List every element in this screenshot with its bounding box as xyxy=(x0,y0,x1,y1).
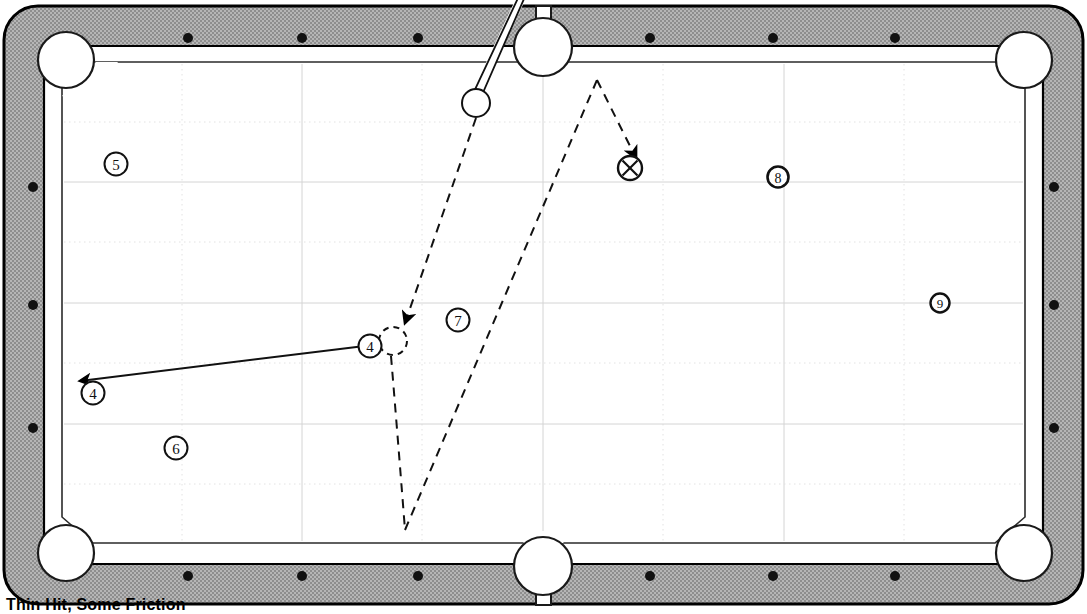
diamond-top-5 xyxy=(768,33,778,43)
figure-caption: Thin Hit, Some Friction xyxy=(6,596,186,614)
ball-object-4-start: 4 xyxy=(359,335,382,358)
diamond-left-3 xyxy=(28,423,38,433)
diamond-bottom-2 xyxy=(297,571,307,581)
target-x-marker xyxy=(618,156,642,180)
ball-marker-5-label: 5 xyxy=(112,157,120,173)
diamond-left-2 xyxy=(28,300,38,310)
diamond-right-1 xyxy=(1049,182,1059,192)
diamond-top-1 xyxy=(183,33,193,43)
pocket-bottom-left xyxy=(38,525,94,581)
ball-marker-8-label: 8 xyxy=(775,171,782,186)
diamond-bottom-4 xyxy=(645,571,655,581)
diamond-bottom-3 xyxy=(413,571,423,581)
pocket-bottom-right xyxy=(996,525,1052,581)
diamond-top-6 xyxy=(890,33,900,43)
ball-marker-8: 8 xyxy=(768,167,789,188)
ball-object-4-end-label: 4 xyxy=(89,386,97,402)
cue-ball xyxy=(462,89,490,117)
diamond-bottom-1 xyxy=(183,571,193,581)
ball-marker-7-label: 7 xyxy=(454,313,462,329)
diamond-top-4 xyxy=(645,33,655,43)
diamond-right-2 xyxy=(1049,300,1059,310)
diamond-right-3 xyxy=(1049,423,1059,433)
ball-marker-9-label: 9 xyxy=(937,296,944,311)
ball-marker-6-label: 6 xyxy=(172,441,180,457)
ball-marker-6: 6 xyxy=(165,437,188,460)
ball-object-4-end: 4 xyxy=(82,382,105,405)
diamond-bottom-6 xyxy=(890,571,900,581)
diamond-top-3 xyxy=(413,33,423,43)
ball-marker-5: 5 xyxy=(105,153,128,176)
diamond-bottom-5 xyxy=(768,571,778,581)
ball-object-4-start-label: 4 xyxy=(366,339,374,355)
diamond-top-2 xyxy=(297,33,307,43)
pocket-top-right xyxy=(996,32,1052,88)
diamond-left-1 xyxy=(28,182,38,192)
ball-marker-9: 9 xyxy=(931,294,950,313)
ball-marker-7: 7 xyxy=(447,309,470,332)
